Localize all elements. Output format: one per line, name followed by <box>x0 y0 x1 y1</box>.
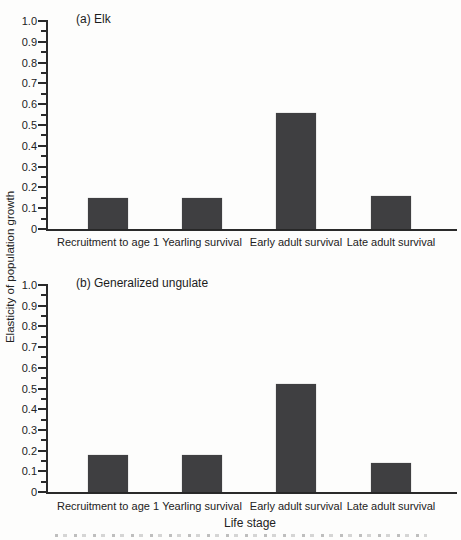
y-tick-label: 0.9 <box>7 36 37 48</box>
bar <box>276 384 316 492</box>
y-tick-label: 1.0 <box>7 15 37 27</box>
y-minor-tick <box>41 197 46 199</box>
bar <box>371 463 411 492</box>
y-tick-label: 0.6 <box>7 98 37 110</box>
x-category-label: Late adult survival <box>331 500 451 512</box>
x-axis-line <box>46 229 457 231</box>
y-major-tick <box>38 207 46 209</box>
y-tick-label: 0.9 <box>7 300 37 312</box>
panels-container: (a) Elk00.10.20.30.40.50.60.70.80.91.0Re… <box>0 0 461 540</box>
y-tick-label: 0.2 <box>7 445 37 457</box>
panel-label: (a) Elk <box>76 13 111 26</box>
y-tick-label: 0.5 <box>7 119 37 131</box>
y-minor-tick <box>41 336 46 338</box>
y-major-tick <box>38 450 46 452</box>
y-minor-tick <box>41 356 46 358</box>
y-tick-label: 0.6 <box>7 362 37 374</box>
y-minor-tick <box>41 398 46 400</box>
bar <box>276 113 316 229</box>
y-minor-tick <box>41 51 46 53</box>
y-tick-label: 0 <box>7 223 37 235</box>
y-major-tick <box>38 325 46 327</box>
y-tick-label: 0.8 <box>7 57 37 69</box>
y-minor-tick <box>41 315 46 317</box>
y-minor-tick <box>41 114 46 116</box>
y-tick-label: 0.5 <box>7 383 37 395</box>
y-axis-line <box>46 20 48 230</box>
y-minor-tick <box>41 218 46 220</box>
x-axis-title: Life stage <box>190 517 310 530</box>
y-tick-label: 0.3 <box>7 161 37 173</box>
y-major-tick <box>38 62 46 64</box>
y-major-tick <box>38 346 46 348</box>
y-tick-label: 1.0 <box>7 279 37 291</box>
y-major-tick <box>38 491 46 493</box>
y-minor-tick <box>41 155 46 157</box>
y-major-tick <box>38 166 46 168</box>
panel-label: (b) Generalized ungulate <box>76 277 208 290</box>
y-minor-tick <box>41 419 46 421</box>
y-tick-label: 0.7 <box>7 77 37 89</box>
y-major-tick <box>38 103 46 105</box>
y-minor-tick <box>41 377 46 379</box>
bar <box>182 455 222 492</box>
y-major-tick <box>38 145 46 147</box>
y-major-tick <box>38 186 46 188</box>
y-tick-label: 0.3 <box>7 424 37 436</box>
y-minor-tick <box>41 30 46 32</box>
y-tick-label: 0.4 <box>7 403 37 415</box>
y-major-tick <box>38 41 46 43</box>
figure-canvas: Elasticity of population growth (a) Elk0… <box>0 0 461 540</box>
y-major-tick <box>38 284 46 286</box>
y-major-tick <box>38 429 46 431</box>
y-minor-tick <box>41 134 46 136</box>
y-major-tick <box>38 82 46 84</box>
y-tick-label: 0.7 <box>7 341 37 353</box>
y-minor-tick <box>41 176 46 178</box>
y-major-tick <box>38 408 46 410</box>
bar <box>371 196 411 229</box>
y-tick-label: 0 <box>7 486 37 498</box>
y-tick-label: 0.2 <box>7 181 37 193</box>
y-tick-label: 0.8 <box>7 320 37 332</box>
y-minor-tick <box>41 481 46 483</box>
y-major-tick <box>38 124 46 126</box>
y-major-tick <box>38 305 46 307</box>
bar <box>88 198 128 229</box>
clipped-caption-fragment <box>55 534 427 537</box>
bar <box>88 455 128 492</box>
y-minor-tick <box>41 294 46 296</box>
y-minor-tick <box>41 439 46 441</box>
y-major-tick <box>38 367 46 369</box>
y-minor-tick <box>41 72 46 74</box>
y-minor-tick <box>41 93 46 95</box>
y-major-tick <box>38 20 46 22</box>
y-axis-line <box>46 284 48 493</box>
y-major-tick <box>38 388 46 390</box>
y-tick-label: 0.1 <box>7 202 37 214</box>
y-tick-label: 0.1 <box>7 465 37 477</box>
y-major-tick <box>38 470 46 472</box>
bar <box>182 198 222 229</box>
y-minor-tick <box>41 460 46 462</box>
x-category-label: Late adult survival <box>331 236 451 248</box>
y-tick-label: 0.4 <box>7 140 37 152</box>
y-major-tick <box>38 228 46 230</box>
x-axis-line <box>46 492 457 494</box>
